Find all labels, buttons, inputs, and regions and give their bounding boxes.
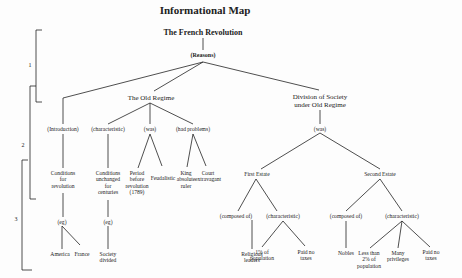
connector-lines [0,0,462,278]
reasons-link: (Reasons) [191,52,216,59]
king-absolute-ruler-node: King absolute ruler [177,170,196,189]
level-1-label: 1 [29,62,32,68]
division-of-society-node: Division of Society under Old Regime [293,93,347,109]
had-problems-link: (had problems) [176,126,210,132]
characteristic-eg-link: (eg) [103,219,112,225]
feudalistic-node: Feudalistic [151,175,176,181]
was-link: (was) [144,126,156,132]
bracket-level-1 [36,30,42,102]
less-than-two-percent-leaf: Less than 2% of population [357,250,381,269]
america-leaf: America [50,251,69,257]
introduction-link: (Introduction) [47,126,78,132]
level-2-label: 2 [22,142,25,148]
informational-map: 1 2 3 Informational Map The French Revol… [0,0,462,278]
first-estate-composed-link: (composed of) [220,213,252,219]
bracket-level-2 [30,86,36,199]
level-3-label: 3 [15,216,18,222]
one-percent-population-leaf: 1% of population [250,249,274,262]
second-estate-characteristic-link: (characteristic) [385,213,419,219]
court-extravagant-node: Court extravagant [195,170,221,183]
conditions-unchanged-node: Conditions unchanged for centuries [96,170,121,196]
first-estate-characteristic-link: (characteristic) [266,213,300,219]
introduction-eg-link: (eg) [57,219,66,225]
second-estate-composed-link: (composed of) [330,213,362,219]
first-estate-paid-no-taxes-leaf: Paid no taxes [298,249,315,262]
root-node: The French Revolution [164,28,243,37]
conditions-for-revolution-node: Conditions for revolution [51,170,76,189]
second-estate-paid-no-taxes-leaf: Paid no taxes [423,249,440,262]
society-divided-leaf: Society divided [100,251,117,264]
bracket-level-3 [22,160,32,270]
old-regime-node: The Old Regime [128,94,175,102]
characteristic-link: (characteristic) [91,126,125,132]
second-estate-node: Second Estate [364,171,396,177]
many-privileges-leaf: Many privileges [387,250,409,263]
map-title: Informational Map [160,4,251,17]
period-before-revolution-node: Period before revolution (1789) [126,170,149,196]
nobles-leaf: Nobles [338,250,354,256]
division-was-link: (was) [314,126,326,132]
first-estate-node: First Estate [244,171,269,177]
france-leaf: France [74,251,89,257]
